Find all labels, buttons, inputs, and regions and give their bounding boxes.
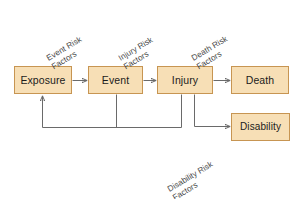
connector-layer	[0, 0, 303, 199]
diagram-canvas: Exposure Event Injury Death Disability E…	[0, 0, 303, 199]
arrow-injury-to-disability	[195, 95, 231, 127]
node-death[interactable]: Death	[231, 66, 289, 94]
node-disability-label: Disability	[240, 122, 281, 132]
node-exposure-label: Exposure	[20, 75, 65, 86]
node-disability[interactable]: Disability	[231, 113, 290, 141]
node-death-label: Death	[246, 75, 275, 86]
edge-label-disability-risk-factors: Disability Risk Factors	[166, 160, 220, 199]
node-event[interactable]: Event	[88, 66, 143, 94]
node-exposure[interactable]: Exposure	[14, 66, 72, 94]
node-injury-label: Injury	[172, 75, 198, 86]
node-event-label: Event	[102, 75, 129, 86]
feedback-line-injury	[43, 95, 182, 128]
node-injury[interactable]: Injury	[157, 66, 213, 94]
